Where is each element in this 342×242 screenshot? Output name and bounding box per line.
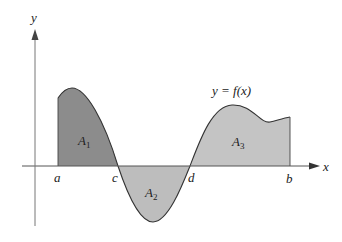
x-axis-label: x [322,159,329,174]
point-label-a: a [54,170,61,185]
x-axis-arrow-icon [309,163,320,170]
function-label: y = f(x) [210,83,251,98]
y-axis-arrow-icon [32,29,39,40]
y-axis-label: y [29,10,37,25]
point-label-b: b [286,171,293,186]
point-label-c: c [112,170,118,185]
region-a3 [190,105,290,166]
point-label-d: d [188,170,195,185]
area-diagram: y x a c d b y = f(x) A1 A2 A3 [0,0,342,242]
